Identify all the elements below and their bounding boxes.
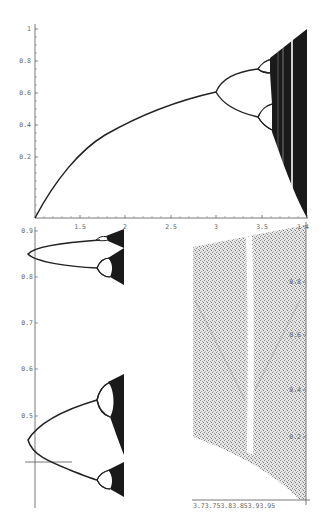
bifurcation-figure: 1 0.8 0.6 0.4 0.2 1.5 2 2.5 3 3.5 4 (0, 0, 321, 523)
top-y-label: 1 (27, 25, 31, 33)
br-y-label: 0.2 (289, 433, 301, 441)
top-y-label: 0.6 (19, 89, 31, 97)
bottom-right-chaos-zoom-chart: 1 0.8 0.6 0.4 0.2 3.73.753.83.853.93.95 (190, 220, 310, 510)
bl-upper-chaos (106, 229, 124, 248)
br-y-label: 0.6 (289, 331, 301, 339)
bl-lower-lower-chaos (108, 462, 124, 497)
chaos-region (270, 29, 307, 218)
period-2-upper (216, 69, 258, 92)
bl-lower-fork (28, 400, 97, 480)
bl-mid-chaos (108, 248, 124, 285)
br-y-label: 1 (297, 223, 301, 231)
top-y-label: 0.4 (19, 121, 31, 129)
br-x-labels: 3.73.753.83.853.93.95 (193, 502, 275, 510)
top-x-label: 1.5 (74, 223, 86, 231)
top-x-label: 3 (214, 223, 218, 231)
bl-y-label: 0.6 (21, 365, 33, 373)
bl-y-label: 0.7 (21, 319, 33, 327)
top-x-label: 2.5 (165, 223, 177, 231)
top-x-label: 3.5 (256, 223, 268, 231)
bl-lower-upper-chaos (108, 374, 124, 455)
bl-upper-fork (28, 240, 100, 268)
bl-y-label: 0.8 (21, 273, 33, 281)
top-y-label: 0.2 (19, 153, 31, 161)
bl-lower-fork-entry (55, 412, 97, 432)
bl-y-label: 0.9 (21, 227, 33, 235)
top-y-label: 0.8 (19, 57, 31, 65)
fixed-point-curve (35, 92, 216, 218)
top-bifurcation-chart: 1 0.8 0.6 0.4 0.2 1.5 2 2.5 3 3.5 4 (19, 24, 309, 231)
bottom-left-cascade-chart: 0.9 0.8 0.7 0.6 0.5 (21, 227, 124, 508)
br-y-label: 0.4 (289, 386, 301, 394)
br-y-label: 0.8 (289, 278, 301, 286)
bl-y-label: 0.5 (21, 412, 33, 420)
period-2-lower (216, 92, 258, 117)
